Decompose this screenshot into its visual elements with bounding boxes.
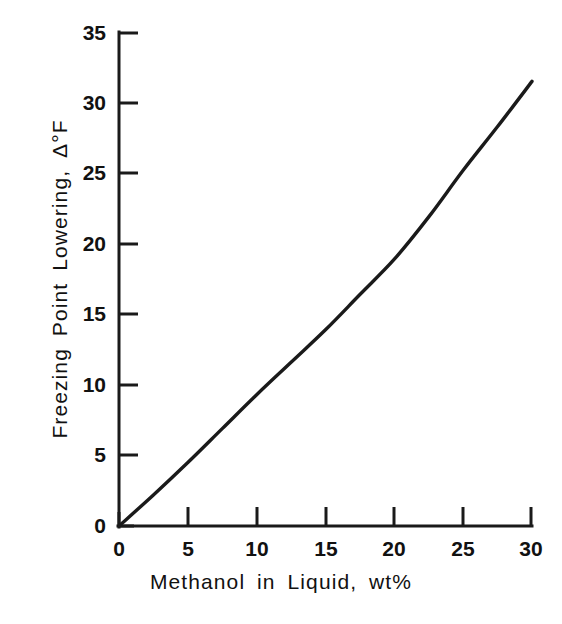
x-tick-label-20: 20 — [382, 537, 405, 561]
x-tick-label-30: 30 — [519, 537, 542, 561]
x-tick-label-10: 10 — [245, 537, 268, 561]
x-tick-label-0: 0 — [113, 537, 125, 561]
x-tick-label-15: 15 — [314, 537, 337, 561]
x-tick-label-25: 25 — [451, 537, 474, 561]
chart-figure: 0 5 10 15 20 25 30 35 0 5 10 15 20 25 30… — [0, 0, 562, 624]
x-axis-title: Methanol in Liquid, wt% — [0, 570, 562, 594]
y-tick-label-0: 0 — [50, 514, 106, 538]
x-tick-label-5: 5 — [182, 537, 194, 561]
y-axis-title: Freezing Point Lowering, Δ°F — [48, 49, 72, 509]
y-tick-label-35: 35 — [50, 21, 106, 45]
